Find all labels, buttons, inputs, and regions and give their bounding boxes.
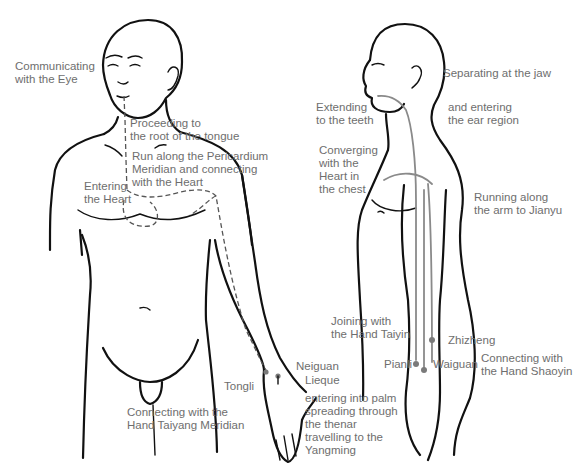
label-communicating-eye: Communicating with the Eye <box>15 60 95 86</box>
label-pianli: Pianli <box>384 358 412 371</box>
label-hand-shaoyin: Connecting with the Hand Shaoyin <box>481 352 572 378</box>
label-extending-teeth: Extending to the teeth <box>316 101 374 127</box>
front-figure <box>50 20 316 462</box>
label-hand-taiyin: Joining with the Hand Taiyin <box>331 315 410 341</box>
label-jianyu: Running along the arm to Jianyu <box>474 191 562 217</box>
label-pericardium: Run along the Pericardium Meridian and c… <box>132 150 268 189</box>
label-neiguan: Neiguan <box>296 360 339 373</box>
label-tongli: Tongli <box>224 380 254 393</box>
label-root-of-tongue: Proceeding to the root of the tongue <box>130 117 239 143</box>
label-ear-region: and entering the ear region <box>448 101 519 127</box>
label-separating-jaw: Separating at the jaw <box>443 67 551 80</box>
label-lieque: Lieque <box>305 374 340 387</box>
label-hand-taiyang: Connecting with the Hand Taiyang Meridia… <box>127 406 244 432</box>
label-zhizheng: Zhizheng <box>448 334 495 347</box>
label-palm-yangming: entering into palm spreading through the… <box>305 392 398 457</box>
label-entering-heart: Entering the Heart <box>84 180 131 206</box>
label-converging-heart: Converging with the Heart in the chest <box>319 144 378 196</box>
label-waiguan: Waiguan <box>433 358 478 371</box>
